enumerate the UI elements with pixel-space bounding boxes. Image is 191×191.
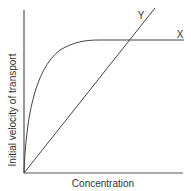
- series-y-line: [24, 8, 155, 173]
- x-axis-title: Concentration: [72, 178, 134, 189]
- y-axis-title: Initial velocity of transport: [7, 53, 18, 166]
- series-y-label: Y: [138, 10, 145, 21]
- series-x-label: X: [177, 29, 184, 40]
- transport-velocity-chart: Y X Concentration Initial velocity of tr…: [0, 0, 191, 191]
- series-x-curve: [24, 40, 184, 173]
